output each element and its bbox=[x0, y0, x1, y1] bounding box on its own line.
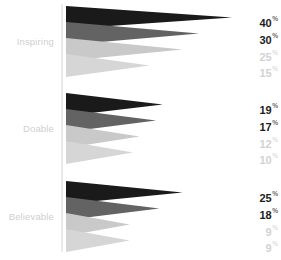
pennant-doable-series-3 bbox=[66, 125, 140, 148]
pennant-funnel-chart: InspiringDoableBelievable 40%30%25%15%19… bbox=[0, 0, 281, 260]
pennant-doable-series-2 bbox=[66, 109, 156, 132]
value-number: 10 bbox=[259, 154, 271, 166]
pennant-believable-series-2 bbox=[66, 197, 159, 220]
value-label-doable-2: 17% bbox=[259, 118, 278, 134]
percent-sign: % bbox=[272, 136, 278, 143]
value-number: 19 bbox=[259, 104, 271, 116]
value-label-inspiring-1: 40% bbox=[259, 14, 278, 30]
value-label-believable-2: 18% bbox=[259, 206, 278, 222]
value-label-doable-3: 12% bbox=[259, 135, 278, 151]
pennant-believable-series-3 bbox=[66, 213, 130, 236]
percent-sign: % bbox=[272, 190, 278, 197]
value-number: 9 bbox=[266, 242, 272, 254]
percent-sign: % bbox=[272, 65, 278, 72]
pennant-inspiring-series-4 bbox=[66, 54, 150, 77]
value-number: 25 bbox=[259, 192, 271, 204]
percent-sign: % bbox=[272, 207, 278, 214]
category-label-believable: Believable bbox=[0, 211, 54, 222]
value-label-inspiring-2: 30% bbox=[259, 31, 278, 47]
value-number: 17 bbox=[259, 121, 271, 133]
pennant-inspiring-series-2 bbox=[66, 22, 199, 45]
chart-axis-line bbox=[61, 4, 63, 252]
category-label-inspiring: Inspiring bbox=[0, 36, 54, 47]
percent-sign: % bbox=[272, 102, 278, 109]
pennant-doable-series-1 bbox=[66, 93, 163, 116]
value-number: 12 bbox=[259, 138, 271, 150]
value-number: 40 bbox=[259, 17, 271, 29]
value-label-doable-4: 10% bbox=[259, 151, 278, 167]
value-label-believable-4: 9% bbox=[266, 239, 278, 255]
value-number: 30 bbox=[259, 34, 271, 46]
value-number: 15 bbox=[259, 67, 271, 79]
percent-sign: % bbox=[272, 49, 278, 56]
percent-sign: % bbox=[272, 152, 278, 159]
percent-sign: % bbox=[272, 240, 278, 247]
value-number: 9 bbox=[266, 226, 272, 238]
percent-sign: % bbox=[272, 224, 278, 231]
pennant-doable-series-4 bbox=[66, 141, 133, 164]
percent-sign: % bbox=[272, 119, 278, 126]
value-label-believable-3: 9% bbox=[266, 223, 278, 239]
percent-sign: % bbox=[272, 32, 278, 39]
percent-sign: % bbox=[272, 15, 278, 22]
value-label-inspiring-4: 15% bbox=[259, 64, 278, 80]
pennant-believable-series-4 bbox=[66, 229, 130, 252]
pennant-believable-series-1 bbox=[66, 181, 183, 204]
value-number: 18 bbox=[259, 209, 271, 221]
value-label-doable-1: 19% bbox=[259, 101, 278, 117]
value-number: 25 bbox=[259, 51, 271, 63]
pennant-inspiring-series-3 bbox=[66, 38, 183, 61]
pennant-inspiring-series-1 bbox=[66, 6, 232, 29]
category-label-doable: Doable bbox=[0, 123, 54, 134]
value-label-inspiring-3: 25% bbox=[259, 48, 278, 64]
value-label-believable-1: 25% bbox=[259, 189, 278, 205]
